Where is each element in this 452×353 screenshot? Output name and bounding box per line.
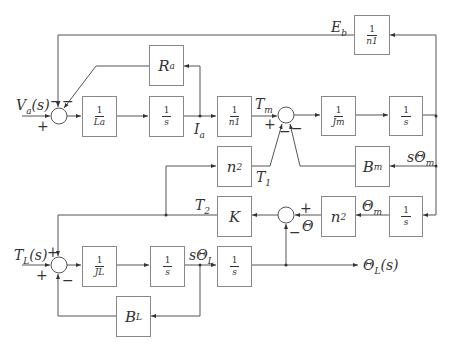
- integrator-block-1: 1s: [149, 96, 184, 137]
- inverse-jm-block: 1Jm: [321, 96, 356, 136]
- integrator-block-2: 1s: [389, 96, 423, 136]
- sum4-plus-sign-left: +: [36, 268, 48, 282]
- block-diagram: 1n1 Ra 1La 1s 1n1 1Jm 1s n2 Bm K n2 1s 1…: [0, 0, 452, 353]
- k-block: K: [217, 196, 252, 237]
- eb-label: Eb: [331, 20, 347, 38]
- ia-label: Ia: [194, 122, 205, 140]
- bm-block: Bm: [355, 146, 390, 187]
- n2-lower-block: n2: [321, 196, 356, 237]
- tl-input-label: TL(s): [14, 248, 47, 266]
- sum1-minus-sign-a: −: [50, 94, 62, 108]
- sum2-minus-sign-a: −: [279, 124, 291, 138]
- tm-label: Tm: [255, 97, 273, 115]
- sum4-plus-sign-top: +: [47, 245, 59, 259]
- theta-label: Θ: [302, 219, 313, 233]
- integrator-block-3: 1s: [389, 196, 423, 237]
- sum4-minus-sign: −: [62, 273, 74, 287]
- sum1-plus-sign: +: [37, 119, 49, 133]
- sum2-minus-sign-b: −: [291, 121, 303, 135]
- t2-label: T2: [195, 198, 210, 216]
- n2-upper-block: n2: [217, 146, 252, 187]
- summing-junction-3: [278, 207, 294, 223]
- inverse-jl-block: 1JL: [82, 246, 117, 287]
- sum3-plus-sign: +: [300, 201, 312, 215]
- theta-l-output-label: ΘL(s): [363, 258, 399, 276]
- s-theta-m-label: sΘm: [407, 150, 434, 168]
- inverse-la-block: 1La: [82, 96, 117, 137]
- inverse-n1-block: 1n1: [217, 96, 252, 137]
- va-input-label: Va(s): [16, 98, 50, 116]
- sum2-plus-sign: +: [264, 117, 276, 131]
- sum1-minus-sign-b: −: [62, 94, 74, 108]
- bl-block: BL: [116, 296, 151, 337]
- theta-m-label: Θm: [362, 199, 382, 217]
- integrator-block-4: 1s: [150, 246, 185, 287]
- s-theta-l-label: sΘL: [189, 248, 214, 266]
- summing-junction-1: [51, 108, 67, 124]
- sum3-minus-sign: −: [289, 225, 301, 239]
- integrator-block-5: 1s: [217, 246, 252, 287]
- inverse-n1-feedback-block: 1n1: [354, 15, 390, 55]
- t1-label: T1: [256, 170, 271, 188]
- ra-block: Ra: [149, 45, 184, 86]
